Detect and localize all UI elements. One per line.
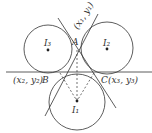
dashed-c-i1 (77, 73, 94, 101)
center-i3 (47, 49, 50, 52)
label-i1: I₁ (71, 105, 79, 115)
label-a: A (71, 37, 79, 47)
center-i2 (106, 48, 109, 51)
label-c: C (101, 75, 108, 85)
label-b: B (41, 75, 49, 85)
label-b-coord: (x₂, y₂) (13, 75, 44, 85)
label-c-coord: (x₃, y₃) (108, 75, 139, 85)
label-i2: I₂ (102, 38, 111, 48)
dashed-b-i1 (60, 73, 77, 101)
excircle-diagram: I₃ I₂ I₁ A (x₁, y₁) (x₂, y₂) B C (x₃, y₃… (0, 0, 152, 133)
line-ab (45, 14, 98, 116)
center-i1 (76, 100, 79, 103)
label-i3: I₃ (43, 38, 52, 48)
